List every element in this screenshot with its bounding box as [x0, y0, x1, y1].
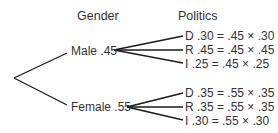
header-politics: Politics [178, 9, 218, 23]
branch-female-i [127, 107, 183, 120]
branch-root-male [14, 53, 67, 78]
node-female: Female .55 [71, 100, 131, 114]
header-gender: Gender [77, 9, 119, 23]
node-female-independent: I .30 = .55 × .30 [185, 114, 269, 128]
branch-male-i [114, 50, 183, 63]
branch-root-female [14, 78, 67, 105]
node-male-independent: I .25 = .45 × .25 [185, 57, 269, 71]
node-female-democrat: D .35 = .55 × .35 [185, 86, 274, 100]
branch-male-d [114, 36, 183, 50]
branch-female-d [127, 93, 183, 107]
node-male: Male .45 [71, 44, 117, 58]
node-male-republican: R .45 = .45 × .45 [185, 43, 274, 57]
node-female-republican: R .35 = .55 × .35 [185, 100, 274, 114]
node-male-democrat: D .30 = .45 × .30 [185, 29, 274, 43]
